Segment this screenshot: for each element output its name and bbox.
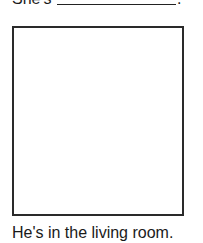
caption-text: He's in the living room. — [12, 224, 173, 242]
prompt-period: . — [177, 0, 181, 8]
drawing-box — [12, 26, 184, 216]
prompt-text: She's — [12, 0, 52, 8]
answer-blank-line[interactable] — [57, 4, 176, 5]
